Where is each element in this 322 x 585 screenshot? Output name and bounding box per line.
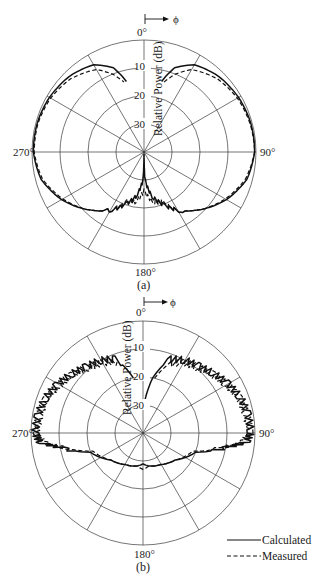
legend: Calculated Measured [227,534,311,562]
polar-figure: ϕ 0° 90° 180° 270° 10 20 30 Relative Pow… [0,0,322,585]
tick-10-a: 10 [134,60,146,72]
angle-label-90-a: 90° [260,146,275,158]
phi-label-b: ϕ [170,296,176,308]
angle-label-270-b: 270° [12,427,33,439]
tick-20-a: 20 [134,89,146,101]
angle-label-270-a: 270° [13,146,34,158]
caption-b: (b) [136,560,150,574]
radial-ticks-b: 10 20 30 [133,341,150,411]
radial-ticks-a: 10 20 30 [134,60,151,130]
caption-a: (a) [137,278,150,292]
phi-arrow-icon-b [144,297,168,306]
angle-label-180-b: 180° [134,548,155,560]
grid-spoke [143,377,240,433]
grid-spoke [88,152,144,249]
angle-label-0-b: 0° [136,306,146,318]
radial-axis-label-b: Relative Power (dB) [121,320,134,415]
tick-30-a: 30 [134,118,146,130]
grid-spoke [46,433,143,489]
polar-grid-b [31,321,255,545]
phi-label-a: ϕ [173,13,179,25]
tick-20-b: 20 [133,370,145,382]
grid-spoke [47,96,144,152]
grid-spoke [87,433,143,530]
angle-label-90-b: 90° [259,427,274,439]
polar-plot-b: ϕ 0° 90° 180° 270° 10 20 30 Relative Pow… [12,296,274,574]
grid-spoke [143,336,199,433]
tick-10-b: 10 [133,341,145,353]
angle-label-180-a: 180° [135,266,156,278]
tick-30-b: 30 [133,399,145,411]
grid-spoke [143,433,240,489]
angle-label-0-a: 0° [137,26,147,38]
radial-axis-label-a: Relative Power (dB) [152,41,165,136]
legend-calculated: Calculated [262,534,311,546]
grid-spoke [143,433,199,530]
polar-grid-a [32,40,256,264]
polar-plot-a: ϕ 0° 90° 180° 270° 10 20 30 Relative Pow… [13,13,275,292]
phi-arrow-icon-a [145,14,169,24]
legend-measured: Measured [262,550,308,562]
